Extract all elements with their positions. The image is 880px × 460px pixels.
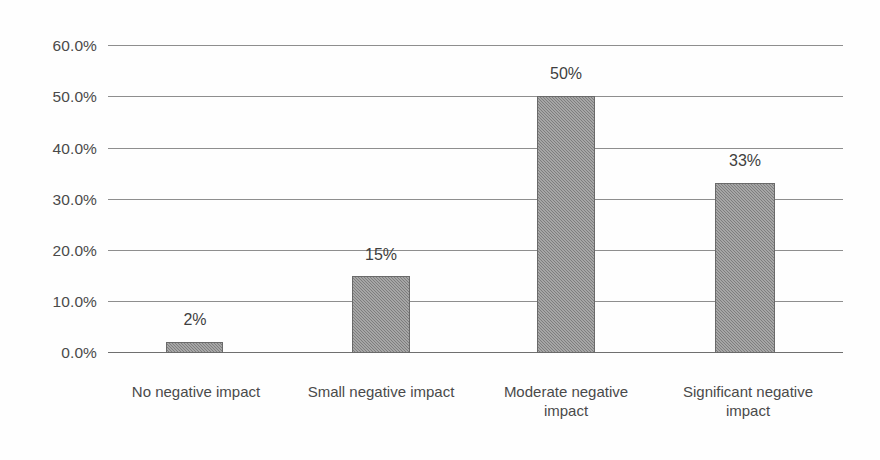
bar-value-label: 33% bbox=[700, 153, 790, 169]
y-axis-tick-label: 30.0% bbox=[7, 192, 97, 208]
x-axis-category-label-small-negative-impact: Small negative impact bbox=[291, 382, 471, 401]
x-axis-category-label-significant-negative-impact: Significant negative impact bbox=[657, 382, 839, 420]
bar-value-label: 50% bbox=[521, 66, 611, 82]
x-axis-category-label-moderate-negative-impact: Moderate negative impact bbox=[478, 382, 654, 420]
bar-moderate-negative-impact bbox=[537, 96, 595, 353]
bar-small-negative-impact bbox=[352, 276, 410, 353]
gridline-60 bbox=[108, 45, 843, 46]
y-axis-tick-label: 10.0% bbox=[7, 294, 97, 310]
bar-no-negative-impact bbox=[166, 342, 223, 353]
y-axis-tick-label: 20.0% bbox=[7, 243, 97, 259]
bar-significant-negative-impact bbox=[715, 183, 775, 353]
y-axis-tick-label: 40.0% bbox=[7, 141, 97, 157]
bar-value-label: 15% bbox=[336, 247, 426, 263]
gridline-40 bbox=[108, 148, 843, 149]
gridline-50 bbox=[108, 96, 843, 97]
bar-chart: 60.0% 50.0% 40.0% 30.0% 20.0% 10.0% 0.0%… bbox=[0, 0, 880, 460]
bar-value-label: 2% bbox=[150, 312, 240, 328]
y-axis-tick-label: 60.0% bbox=[7, 38, 97, 54]
y-axis-tick-label: 0.0% bbox=[7, 345, 97, 361]
y-axis-tick-label: 50.0% bbox=[7, 89, 97, 105]
x-axis-category-label-no-negative-impact: No negative impact bbox=[110, 382, 282, 401]
